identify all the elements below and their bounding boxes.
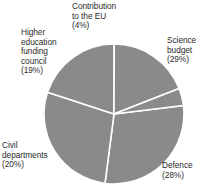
pie-label-defence: Defence (28%): [162, 161, 212, 180]
pie-label-civil-departments: Civil departments (20%): [2, 141, 64, 170]
pie-label-contribution-to-the-eu: Contribution to the EU (4%): [72, 2, 136, 31]
pie-chart-figure: Contribution to the EU (4%) Higher educa…: [0, 0, 212, 195]
pie-label-science-budget: Science budget (29%): [167, 36, 212, 65]
pie-label-higher-education-funding-council: Higher education funding council (19%): [21, 28, 73, 76]
